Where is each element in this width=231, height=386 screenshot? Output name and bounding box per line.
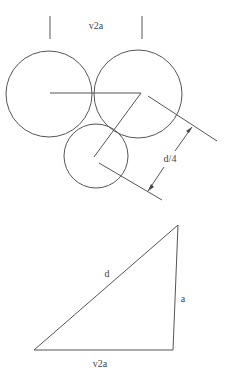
- circles: [6, 50, 182, 188]
- hypotenuse-label: d: [105, 268, 110, 279]
- arrowhead-down-icon: [148, 184, 154, 191]
- upper-extension-line: [148, 96, 217, 141]
- dimension-label: d/4: [164, 153, 177, 164]
- triangle: d a v2a: [34, 225, 186, 369]
- width-marker: v2a: [50, 16, 142, 39]
- side-label: a: [181, 293, 186, 304]
- left-circle: [6, 51, 92, 137]
- arrowhead-up-icon: [186, 127, 192, 133]
- width-label: v2a: [89, 20, 104, 31]
- diagonal-center-line: [94, 93, 141, 157]
- center-lines: [50, 93, 141, 157]
- lower-extension-line: [99, 163, 162, 200]
- diagram-canvas: v2a d/4 d a v2a: [0, 0, 231, 386]
- triangle-shape: [34, 225, 178, 350]
- extension-lines: [99, 96, 217, 200]
- dimension-arrow: d/4: [148, 127, 192, 191]
- right-circle: [94, 50, 182, 138]
- bottom-circle: [64, 124, 128, 188]
- base-label: v2a: [93, 358, 108, 369]
